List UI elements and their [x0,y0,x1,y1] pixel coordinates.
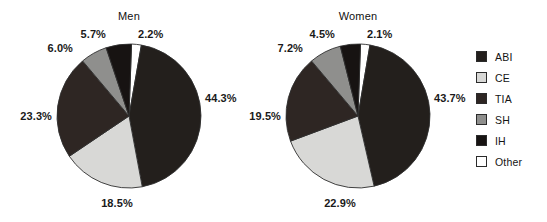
legend-label: CE [495,72,510,84]
legend-swatch-icon [476,114,487,125]
pie-value-label: 5.7% [81,28,106,40]
pie-value-label: 7.2% [278,42,303,54]
chart-title: Women [339,10,378,22]
legend-label: IH [495,135,506,147]
pie-value-label: 44.3% [205,92,237,104]
legend-label: ABI [495,51,513,63]
legend-swatch-icon [476,93,487,104]
legend-swatch-icon [476,72,487,83]
pie-slice-abi[interactable] [129,45,201,187]
legend-item-tia[interactable]: TIA [476,88,544,109]
legend-label: TIA [495,93,512,105]
pie-chart-figure: Men2.2%44.3%18.5%23.3%6.0%5.7%Women2.1%4… [0,0,547,222]
pie-value-label: 2.2% [138,28,163,40]
pie-value-label: 22.9% [324,197,356,209]
legend-item-other[interactable]: Other [476,151,544,172]
pie-value-label: 18.5% [101,197,133,209]
legend: ABICETIASHIHOther [476,46,544,172]
pie-value-label: 4.5% [310,28,335,40]
legend-item-ce[interactable]: CE [476,67,544,88]
legend-swatch-icon [476,156,487,167]
pie-men [53,40,205,192]
legend-item-sh[interactable]: SH [476,109,544,130]
pie-value-label: 2.1% [367,28,392,40]
legend-item-ih[interactable]: IH [476,130,544,151]
legend-item-abi[interactable]: ABI [476,46,544,67]
pie-value-label: 43.7% [434,92,466,104]
pie-value-label: 19.5% [249,110,281,122]
legend-label: Other [495,156,522,168]
pie-women [282,40,434,192]
legend-swatch-icon [476,135,487,146]
pie-value-label: 23.3% [20,110,52,122]
chart-title: Men [118,10,140,22]
legend-label: SH [495,114,510,126]
legend-swatch-icon [476,51,487,62]
pie-value-label: 6.0% [48,42,73,54]
